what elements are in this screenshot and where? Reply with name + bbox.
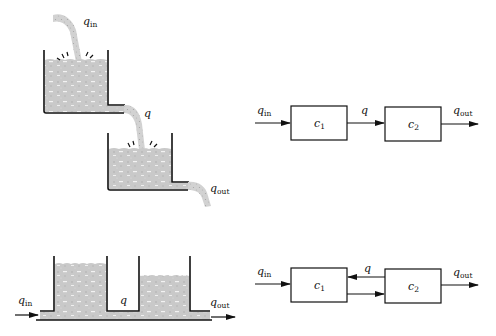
label-q: q [361, 104, 368, 117]
outflow-stream [188, 182, 211, 207]
tank1-outlet-wall [108, 50, 125, 105]
label-q-in: qin [18, 294, 32, 308]
middle-stream [124, 105, 145, 150]
coupled-block-diagram: c1 c2 qin q qout [255, 262, 478, 303]
tank1-water [45, 59, 124, 112]
label-q-out: qout [453, 266, 472, 280]
tank2-right-wall [190, 256, 210, 311]
tank2-outlet-wall [172, 133, 189, 182]
label-q-out: qout [210, 296, 229, 310]
shared-pipe-water [40, 312, 210, 320]
label-q-in: qin [257, 265, 271, 279]
label-q-out: qout [210, 182, 229, 196]
label-q: q [364, 262, 371, 275]
tank2-water [140, 275, 189, 312]
label-q-in: qin [83, 15, 97, 29]
tank-diagram-figure: qin q qout c1 c2 qin q qout qin q qout [0, 0, 496, 336]
label-q-in: qin [257, 104, 271, 118]
label-q-out: qout [453, 104, 472, 118]
cascaded-tanks: qin q qout [44, 14, 229, 207]
tank1-water [55, 263, 106, 312]
tank2-water [109, 148, 188, 189]
tank1-left-wall [40, 256, 54, 311]
connected-tanks: qin q qout [15, 256, 235, 320]
label-q: q [120, 294, 127, 307]
label-q: q [144, 107, 151, 120]
serial-block-diagram: c1 c2 qin q qout [255, 104, 478, 141]
